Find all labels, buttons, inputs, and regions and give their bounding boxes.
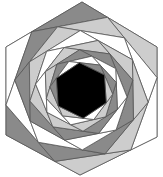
spiral-layers (6, 2, 157, 175)
spiral-hexagon-diagram (0, 0, 163, 177)
